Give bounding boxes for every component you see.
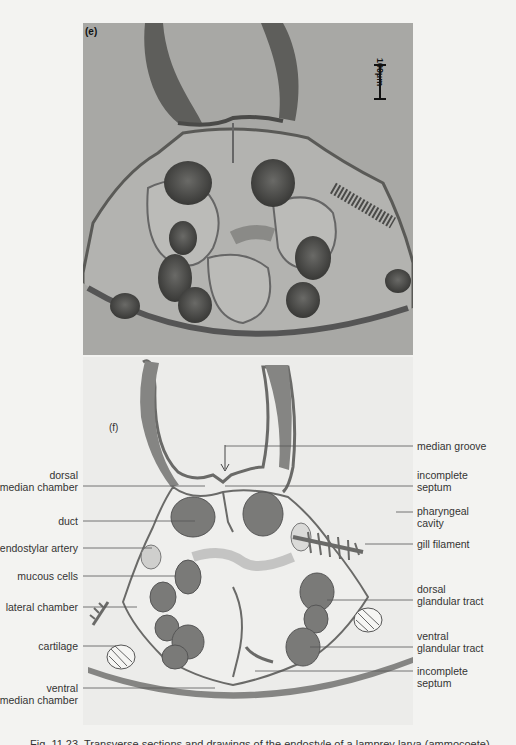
label-lateral-chamber: lateral chamber [6, 601, 78, 613]
label-mucous-cells: mucous cells [17, 570, 78, 582]
figure-caption: Fig. 11.23. Transverse sections and draw… [30, 737, 500, 745]
label-median-groove: median groove [417, 440, 486, 452]
label-dorsal-glandular-tract: dorsal glandular tract [417, 583, 484, 607]
histology-section-image [83, 23, 413, 355]
label-ventral-glandular-tract: ventral glandular tract [417, 630, 484, 654]
label-dorsal-median-chamber: dorsal median chamber [0, 469, 78, 493]
panel-letter-f: (f) [109, 422, 118, 433]
photomicrograph-panel: (e) [83, 23, 413, 355]
label-incomplete-septum-dorsal: incomplete septum [417, 469, 468, 493]
label-ventral-median-chamber: ventral median chamber [0, 682, 78, 706]
label-cartilage: cartilage [38, 640, 78, 652]
scale-bar-label: 100µm [375, 58, 385, 86]
label-incomplete-septum-ventral: incomplete septum [417, 665, 468, 689]
panel-letter-e: (e) [85, 26, 97, 37]
endostyle-drawing [83, 357, 413, 725]
label-gill-filament: gill filament [417, 538, 470, 550]
label-endostylar-artery: endostylar artery [0, 542, 78, 554]
label-pharyngeal-cavity: pharyngeal cavity [417, 505, 469, 529]
diagram-panel: (f) [83, 357, 413, 725]
label-duct: duct [58, 515, 78, 527]
